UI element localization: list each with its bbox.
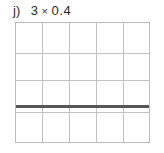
grid-line-vertical-4	[123, 23, 124, 142]
answer-rule-mark	[16, 105, 149, 108]
grid-line-vertical-3	[96, 23, 97, 142]
problem-label: j) 3×0.4	[13, 2, 71, 19]
expression-right-operand: 0.4	[52, 3, 72, 18]
worksheet-problem-item: j) 3×0.4	[0, 0, 164, 153]
multiplication-sign-icon: ×	[41, 5, 48, 17]
decimal-grid-figure[interactable]	[15, 22, 150, 143]
grid-line-vertical-2	[69, 23, 70, 142]
problem-expression: 3×0.4	[31, 2, 72, 20]
problem-item-letter: j)	[13, 2, 21, 19]
grid-line-horizontal-2	[16, 80, 149, 81]
expression-left-operand: 3	[31, 3, 39, 18]
grid-line-vertical-1	[42, 23, 43, 142]
grid-surface[interactable]	[15, 22, 150, 143]
grid-line-horizontal-3	[16, 112, 149, 113]
grid-line-horizontal-1	[16, 53, 149, 54]
